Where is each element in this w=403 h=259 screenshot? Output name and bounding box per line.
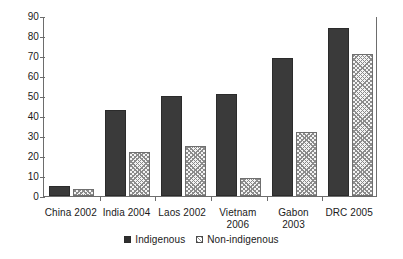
bar-non-indigenous bbox=[73, 189, 94, 196]
bar-indigenous bbox=[328, 28, 349, 196]
bar-group bbox=[322, 17, 378, 196]
bar-non-indigenous bbox=[129, 152, 150, 196]
y-axis-tick-label: 80 bbox=[28, 32, 39, 42]
bar-group bbox=[267, 17, 323, 196]
bar-non-indigenous bbox=[240, 178, 261, 196]
x-axis-tick bbox=[155, 196, 156, 201]
y-axis-tick bbox=[40, 197, 45, 198]
bar-chart: 0102030405060708090 China 2002India 2004… bbox=[0, 0, 403, 259]
x-axis-tick bbox=[100, 196, 101, 201]
bar-group bbox=[155, 17, 211, 196]
x-axis-category-label: DRC 2005 bbox=[321, 207, 377, 219]
legend-label: Non-indigenous bbox=[207, 234, 278, 245]
y-axis-tick-label: 90 bbox=[28, 12, 39, 22]
x-axis-category-label: Vietnam 2006 bbox=[210, 207, 266, 231]
legend-item: Indigenous bbox=[124, 234, 185, 245]
x-axis-category-label: India 2004 bbox=[99, 207, 155, 219]
x-axis-tick bbox=[211, 196, 212, 201]
x-axis-tick bbox=[267, 196, 268, 201]
bar-indigenous bbox=[105, 110, 126, 196]
y-axis-tick-label: 60 bbox=[28, 72, 39, 82]
x-axis-category-label: China 2002 bbox=[43, 207, 99, 219]
y-axis-tick-label: 0 bbox=[33, 192, 39, 202]
legend-swatch-icon bbox=[124, 236, 131, 243]
y-axis-tick-label: 50 bbox=[28, 92, 39, 102]
x-axis-tick bbox=[322, 196, 323, 201]
bar-indigenous bbox=[49, 186, 70, 196]
legend-swatch-icon bbox=[196, 236, 203, 243]
y-axis-tick-label: 30 bbox=[28, 132, 39, 142]
y-axis-tick-label: 70 bbox=[28, 52, 39, 62]
y-axis-tick-label: 10 bbox=[28, 172, 39, 182]
bar-indigenous bbox=[272, 58, 293, 196]
legend-item: Non-indigenous bbox=[196, 234, 278, 245]
chart-legend: IndigenousNon-indigenous bbox=[0, 234, 403, 245]
bar-non-indigenous bbox=[352, 54, 373, 196]
bar-indigenous bbox=[216, 94, 237, 196]
bar-indigenous bbox=[161, 96, 182, 196]
bar-non-indigenous bbox=[296, 132, 317, 196]
bar-non-indigenous bbox=[185, 146, 206, 196]
y-axis-tick-label: 20 bbox=[28, 152, 39, 162]
bar-group bbox=[211, 17, 267, 196]
y-axis-tick-label: 40 bbox=[28, 112, 39, 122]
plot-area: 0102030405060708090 bbox=[43, 17, 377, 197]
legend-label: Indigenous bbox=[135, 234, 185, 245]
x-axis-category-label: Laos 2002 bbox=[154, 207, 210, 219]
bar-group bbox=[44, 17, 100, 196]
x-axis-category-label: Gabon 2003 bbox=[266, 207, 322, 231]
bar-group bbox=[100, 17, 156, 196]
